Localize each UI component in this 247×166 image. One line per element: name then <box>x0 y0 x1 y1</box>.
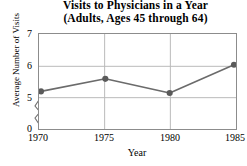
data-markers <box>39 62 236 96</box>
line-chart: Visits to Physicians in a Year (Adults, … <box>0 0 247 166</box>
gridlines-horizontal <box>39 66 236 97</box>
data-point-1970 <box>39 88 44 94</box>
x-axis-title: Year <box>36 147 238 158</box>
chart-title: Visits to Physicians in a Year <box>28 0 243 12</box>
plot-svg <box>39 34 236 129</box>
data-point-1975 <box>102 76 108 82</box>
x-tick-label-1970: 1970 <box>18 132 58 143</box>
x-tick-label-1975: 1975 <box>84 132 124 143</box>
x-tick-label-1985: 1985 <box>215 132 247 143</box>
data-polyline <box>41 65 234 93</box>
y-tick-label-6: 6 <box>2 61 32 71</box>
chart-title-block: Visits to Physicians in a Year (Adults, … <box>28 0 243 25</box>
x-tick-label-1980: 1980 <box>150 132 190 143</box>
y-tick-label-5: 5 <box>2 93 32 103</box>
data-point-1980 <box>167 90 173 96</box>
chart-subtitle: (Adults, Ages 45 through 64) <box>28 12 243 25</box>
plot-area <box>38 33 237 130</box>
data-point-1985 <box>231 62 236 68</box>
y-tick-label-7: 7 <box>2 29 32 39</box>
